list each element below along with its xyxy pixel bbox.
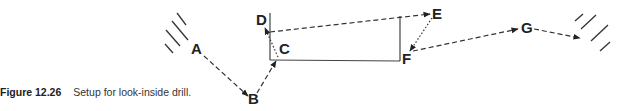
path-a-b: [204, 56, 248, 96]
path-e-f: [410, 18, 432, 51]
exit-hatch-icon: [575, 14, 610, 51]
figure-caption: Figure 12.26Setup for look-inside drill.: [0, 86, 191, 98]
path-g-exit: [534, 29, 580, 38]
point-f-label: F: [402, 50, 411, 67]
path-b-c: [257, 61, 276, 93]
point-d-label: D: [256, 11, 267, 28]
point-a-label: A: [191, 40, 202, 57]
path-d-e: [270, 14, 430, 32]
point-b-label: B: [248, 90, 259, 107]
point-e-label: E: [432, 5, 442, 22]
point-g-label: G: [521, 19, 533, 36]
figure-number: Figure 12.26: [0, 86, 61, 98]
figure-caption-text: Setup for look-inside drill.: [73, 86, 191, 98]
path-f-g: [413, 29, 518, 51]
entry-hatch-icon: [165, 13, 188, 53]
point-c-label: C: [279, 40, 290, 57]
